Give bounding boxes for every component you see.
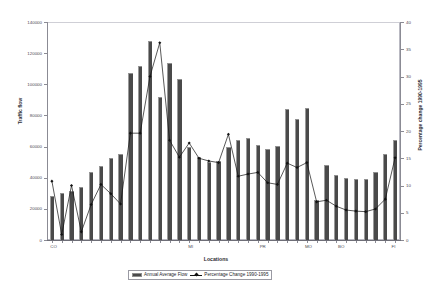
bar [60,193,64,240]
y-axis-left-tick-label: 140000 [0,20,42,25]
x-axis-tick-mark [150,241,151,243]
bar [285,109,289,240]
legend-entry-line: Percentage Change 1990-1995 [190,272,268,278]
x-axis-tick-mark [72,241,73,243]
legend-bar-label: Annual Average Flow [144,272,187,278]
x-axis-tick-mark [199,241,200,243]
bar [187,147,191,240]
clipped-header-text [0,0,432,12]
x-axis-tick-mark [326,241,327,243]
y-axis-left-tick-label: 40000 [0,175,42,180]
x-axis-tick-mark [277,241,278,243]
y-axis-left-tick-label: 20000 [0,206,42,211]
y-axis-right-tick-mark [401,131,404,132]
legend-line-label: Percentage Change 1990-1995 [204,272,268,278]
x-axis-tick-mark [170,241,171,243]
y-axis-left-title: Traffic flow [17,71,23,151]
y-axis-right-tick-mark [401,158,404,159]
y-axis-right-tick-label: 0 [406,238,428,243]
bar [236,140,240,240]
y-axis-right-tick-label: 5 [406,210,428,215]
x-axis-tick-label-mo: MO [300,244,316,249]
bar [207,162,211,240]
bar [79,187,83,240]
legend-line-swatch-icon [190,273,202,278]
chart-legend: Annual Average Flow Percentage Change 19… [128,270,272,280]
bar [373,172,377,241]
legend-bar-swatch-icon [132,273,142,277]
y-axis-right-tick-mark [401,213,404,214]
x-axis-tick-mark [366,241,367,243]
bar [118,154,122,240]
bar [109,158,113,240]
y-axis-left-tick-mark [44,240,47,241]
y-axis-right-title: Percentage change 1990-1995 [417,55,423,175]
bar [383,154,387,240]
y-axis-right-tick-mark [401,49,404,50]
bar [265,149,269,240]
bar [324,165,328,240]
chart-container: 020000400006000080000100000120000140000 … [0,0,432,290]
bar [167,63,171,240]
x-axis-tick-label-co: CO [46,244,62,249]
x-axis-tick-mark [62,241,63,243]
x-axis-tick-mark [81,241,82,243]
x-axis-tick-mark [268,241,269,243]
bar [138,66,142,240]
bar [393,140,397,240]
x-axis-tick-mark [238,241,239,243]
x-axis-tick-label-bo: BO [333,244,349,249]
bar [344,178,348,240]
y-axis-right-tick-mark [401,186,404,187]
x-axis-tick-mark [287,241,288,243]
x-axis-tick-mark [101,241,102,243]
x-axis-tick-mark [179,241,180,243]
x-axis-tick-mark [52,241,53,243]
bar [50,196,54,240]
x-axis-tick-mark [228,241,229,243]
x-axis-tick-mark [189,241,190,243]
x-axis-tick-mark [130,241,131,243]
x-axis-tick-label-mi: MI [183,244,199,249]
bar [364,179,368,240]
bar [177,79,181,240]
x-axis-tick-mark [248,241,249,243]
bar [334,175,338,240]
y-axis-right-tick-mark [401,77,404,78]
x-axis-tick-mark [258,241,259,243]
legend-entry-bar: Annual Average Flow [132,272,187,278]
bar [305,108,309,240]
x-axis-tick-mark [297,241,298,243]
bar [197,157,201,240]
bar [275,146,279,240]
x-axis-tick-mark [209,241,210,243]
bar [354,179,358,240]
x-axis-tick-mark [385,241,386,243]
x-axis-tick-mark [219,241,220,243]
x-axis-title: Locations [0,256,432,262]
x-axis-tick-mark [336,241,337,243]
x-axis-tick-mark [111,241,112,243]
y-axis-right-tick-label: 35 [406,47,428,52]
bar [128,73,132,240]
x-axis-tick-mark [121,241,122,243]
y-axis-right-tick-label: 10 [406,183,428,188]
y-axis-right-tick-label: 40 [406,20,428,25]
bar [69,191,73,240]
bar [256,145,260,240]
bar [148,41,152,240]
bar [314,200,318,240]
y-axis-left-tick-label: 0 [0,238,42,243]
x-axis-tick-mark [307,241,308,243]
x-axis-tick-mark [346,241,347,243]
y-axis-left-tick-label: 120000 [0,51,42,56]
x-axis-tick-mark [160,241,161,243]
bar [89,172,93,241]
y-axis-right-tick-mark [401,104,404,105]
y-axis-right-tick-mark [401,240,404,241]
x-axis-tick-label-pr: PR [255,244,271,249]
bar [158,97,162,240]
x-axis-tick-mark [317,241,318,243]
y-axis-right-tick-mark [401,22,404,23]
bar [216,161,220,240]
